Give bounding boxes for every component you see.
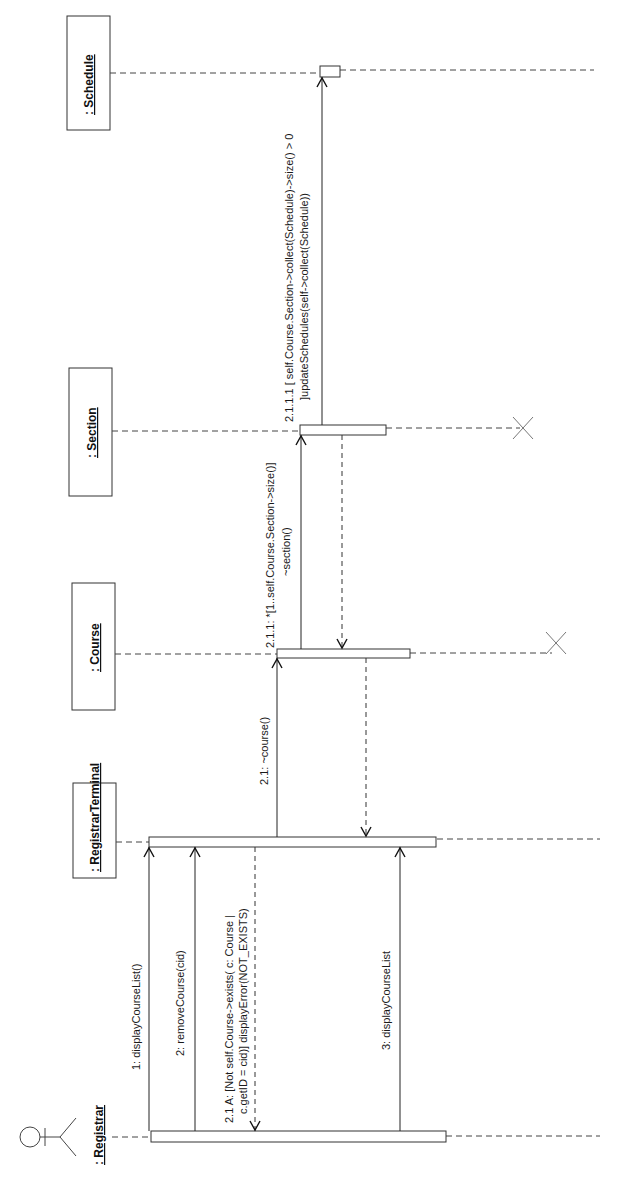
message-label-line1: 2.1 A: [Not self.Course->exists( c: Cour… <box>223 915 235 1123</box>
message-label: 1: displayCourseList() <box>130 964 142 1070</box>
activation-course <box>277 649 410 658</box>
return-section-to-course <box>337 435 347 649</box>
message-label: 3: displayCourseList <box>380 951 392 1050</box>
activation-section <box>300 425 386 435</box>
message-label: 2.1: ~course() <box>258 717 270 785</box>
sequence-diagram: : Registrar : RegistrarTerminal : Course… <box>0 0 634 1192</box>
message-2-1-1-1-update-schedules: 2.1.1.1 [ self.Course.Section->collect(S… <box>283 77 327 425</box>
message-label-line2: c.getID = cid)] displayError(NOT_EXISTS) <box>237 908 249 1114</box>
destroy-x-icon-course <box>546 632 566 654</box>
message-label-line1: 2.1.1.1 [ self.Course.Section->collect(S… <box>283 134 295 422</box>
object-label-registrar-terminal: : RegistrarTerminal <box>88 763 102 872</box>
object-label-section: : Section <box>85 407 99 458</box>
activation-registrar-terminal <box>149 837 436 847</box>
message-label-line2: ~section() <box>280 527 292 576</box>
object-label-course: : Course <box>88 623 102 672</box>
activation-schedule <box>320 66 340 77</box>
message-label-line1: 2.1.1: *[1..self.Course.Section->size()] <box>264 462 276 648</box>
message-label: 2: removeCourse(cid) <box>174 950 186 1056</box>
object-registrar-terminal: : RegistrarTerminal <box>73 763 600 878</box>
activation-registrar <box>151 1131 446 1142</box>
message-2-1-1-destroy-section: 2.1.1: *[1..self.Course.Section->size()]… <box>264 435 306 649</box>
message-label-line2: ]updateSchedules(self->collect(Schedule)… <box>298 193 310 400</box>
actor-label: : Registrar <box>92 1105 106 1165</box>
object-label-schedule: : Schedule <box>82 54 96 115</box>
message-2-1-destroy-course: 2.1: ~course() <box>258 658 282 837</box>
message-2-remove-course: 2: removeCourse(cid) <box>174 847 200 1131</box>
stick-figure-actor-icon <box>20 1118 76 1156</box>
message-2-1a-display-error: 2.1 A: [Not self.Course->exists( c: Cour… <box>223 847 260 1131</box>
object-course: : Course <box>72 583 552 710</box>
message-1-display-course-list: 1: displayCourseList() <box>130 847 154 1131</box>
return-course-to-terminal <box>361 658 371 837</box>
message-3-display-course-list: 3: displayCourseList <box>380 847 405 1131</box>
